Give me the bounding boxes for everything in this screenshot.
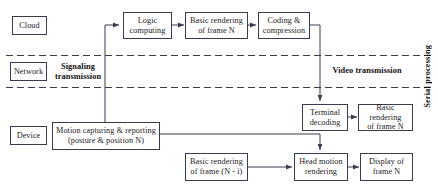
node-label-terminal-decoding: Terminal decoding (310, 108, 341, 127)
node-label-motion-capturing: Motion capturing & reporting (posture & … (56, 126, 156, 145)
wire-motion-to-head-rendering (160, 134, 320, 150)
node-coding-compression: Coding & compression (258, 12, 310, 39)
layer-box-cloud: Cloud (12, 16, 47, 35)
diagram-canvas: Cloud Network Device Logic computing Bas… (0, 0, 438, 195)
node-logic-computing: Logic computing (123, 12, 172, 39)
wire-motion-to-logic (105, 25, 119, 122)
node-basic-rendering-frame-n-minus-i: Basic rendering of frame (N - i) (185, 153, 248, 181)
node-head-motion-rendering: Head motion rendering (294, 153, 348, 181)
layer-box-device: Device (10, 126, 47, 145)
layer-label-cloud: Cloud (19, 21, 39, 31)
node-label-display-frame-n: Display of frame N (369, 157, 404, 176)
node-basic-rendering-frame-n: Basic rendering of frame N (185, 12, 248, 39)
layer-box-network: Network (10, 62, 47, 81)
node-label-head-motion-rendering: Head motion rendering (299, 157, 342, 176)
node-label-logic-computing: Logic computing (130, 16, 166, 35)
node-label-basic-rendering-frame-n-minus-i: Basic rendering of frame (N - i) (190, 157, 243, 176)
layer-label-network: Network (14, 67, 43, 77)
node-display-frame-n: Display of frame N (360, 153, 413, 181)
layer-label-device: Device (17, 131, 41, 141)
annotation-serial-processing: Serial processing (423, 45, 432, 108)
node-label-basic-rendering-frame-n-device: Basic rendering of frame N (361, 103, 410, 132)
annotation-signaling-transmission: Signaling transmission (50, 62, 106, 82)
node-basic-rendering-frame-n-device: Basic rendering of frame N (358, 104, 413, 131)
annotation-video-transmission: Video transmission (322, 66, 412, 76)
node-label-basic-rendering-frame-n: Basic rendering of frame N (190, 16, 243, 35)
wire-coding-to-decoding (310, 25, 320, 101)
node-motion-capturing: Motion capturing & reporting (posture & … (52, 122, 160, 150)
node-label-coding-compression: Coding & compression (263, 16, 305, 35)
node-terminal-decoding: Terminal decoding (302, 104, 348, 131)
